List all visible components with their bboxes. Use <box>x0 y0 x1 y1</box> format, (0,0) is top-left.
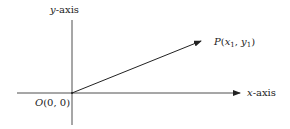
coordinate-diagram <box>0 0 290 129</box>
point-close-paren: ) <box>251 36 255 47</box>
origin-name: O <box>35 97 43 108</box>
point-name: P <box>214 36 221 47</box>
origin-label: O(0, 0) <box>35 98 70 108</box>
point-p-label: P(x1, y1) <box>214 37 255 47</box>
origin-coords: (0, 0) <box>43 97 70 108</box>
y-axis-suffix: -axis <box>56 4 79 15</box>
x-axis-label: x-axis <box>247 88 276 98</box>
y-axis-label: y-axis <box>50 5 79 15</box>
origin-dot <box>71 92 73 94</box>
vector-op-arrow <box>72 41 201 93</box>
x-axis-suffix: -axis <box>253 87 276 98</box>
